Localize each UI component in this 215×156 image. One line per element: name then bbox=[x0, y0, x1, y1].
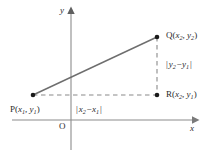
y-axis-arrowhead bbox=[67, 7, 74, 15]
point-p-label: P(x1, y1) bbox=[10, 105, 40, 115]
y-axis-label: y bbox=[60, 6, 64, 15]
label-delta-y: |y2−y1| bbox=[165, 60, 193, 70]
distance-formula-figure: y x O Q(x2, y2) R(x2, y1) P(x1, y1) |y2−… bbox=[0, 0, 215, 156]
point-r-label: R(x2, y1) bbox=[166, 90, 197, 100]
label-delta-x: |x2−x1| bbox=[75, 105, 103, 115]
figure-canvas bbox=[0, 0, 215, 156]
point-q-label: Q(x2, y2) bbox=[166, 31, 197, 41]
origin-label: O bbox=[59, 122, 66, 131]
x-axis-label: x bbox=[190, 124, 194, 133]
point-p-marker bbox=[31, 93, 36, 98]
delta-x-bar-right: | bbox=[99, 104, 103, 114]
point-r-marker bbox=[155, 93, 160, 98]
point-q-marker bbox=[155, 35, 160, 40]
segment-pq-solid bbox=[33, 37, 157, 95]
delta-y-bar-right: | bbox=[189, 59, 193, 69]
